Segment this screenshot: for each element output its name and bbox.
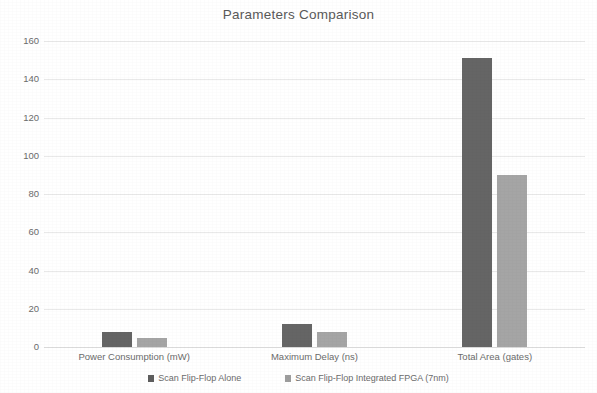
bar [462, 58, 492, 347]
gridline [44, 347, 585, 348]
y-axis-tick-label: 0 [3, 342, 39, 352]
y-axis-tick-label: 140 [3, 74, 39, 84]
x-axis-category-label: Total Area (gates) [395, 352, 595, 362]
legend-swatch-icon [285, 375, 291, 382]
y-axis-tick-label: 80 [3, 189, 39, 199]
y-axis-tick-label: 100 [3, 151, 39, 161]
chart-title: Parameters Comparison [0, 7, 597, 22]
legend-label: Scan Flip-Flop Integrated FPGA (7nm) [295, 374, 449, 383]
bar [282, 324, 312, 347]
x-axis-category-label: Power Consumption (mW) [34, 352, 234, 362]
gridline [44, 156, 585, 157]
y-axis-tick-label: 160 [3, 36, 39, 46]
bar [497, 175, 527, 347]
bar [137, 338, 167, 347]
bar-chart: Parameters Comparison 020406080100120140… [0, 0, 597, 393]
gridline [44, 41, 585, 42]
gridline [44, 118, 585, 119]
legend-swatch-icon [148, 375, 154, 382]
legend-item[interactable]: Scan Flip-Flop Integrated FPGA (7nm) [285, 374, 449, 383]
y-axis-tick-label: 20 [3, 304, 39, 314]
y-axis-tick-label: 60 [3, 227, 39, 237]
y-axis-tick-label: 120 [3, 113, 39, 123]
chart-legend: Scan Flip-Flop AloneScan Flip-Flop Integ… [0, 374, 597, 383]
legend-item[interactable]: Scan Flip-Flop Alone [148, 374, 241, 383]
legend-label: Scan Flip-Flop Alone [158, 374, 241, 383]
bar [102, 332, 132, 347]
y-axis-tick-label: 40 [3, 266, 39, 276]
plot-area [44, 41, 585, 347]
bar [317, 332, 347, 347]
x-axis-category-label: Maximum Delay (ns) [215, 352, 415, 362]
gridline [44, 79, 585, 80]
